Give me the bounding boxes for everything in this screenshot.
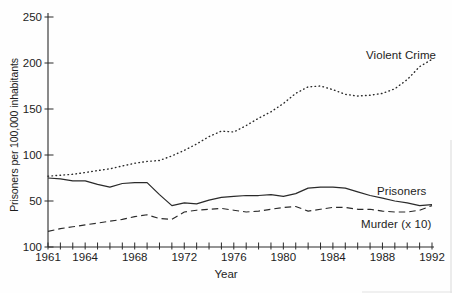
y-tick-label: 150 — [23, 103, 42, 115]
series-label-murder: Murder (x 10) — [361, 218, 431, 230]
y-tick-label: 250 — [23, 11, 42, 23]
line-chart-figure: 1005010015020025019611964196819721976198… — [0, 0, 452, 293]
x-tick-label: 1968 — [122, 251, 148, 263]
series-label-prisoners: Prisoners — [377, 185, 426, 197]
x-tick-label: 1988 — [370, 251, 396, 263]
y-axis-ticks — [45, 17, 54, 247]
x-axis-title: Year — [206, 268, 246, 280]
series-label-violent-crime: Violent Crime — [366, 49, 436, 61]
y-tick-label: 50 — [29, 195, 42, 207]
x-tick-label: 1984 — [320, 251, 346, 263]
y-axis-title: Prisoners per 100,000 inhabitants — [8, 45, 20, 225]
x-axis-ticks — [48, 243, 432, 250]
series-line-prisoners — [48, 178, 432, 206]
y-tick-label: 100 — [23, 149, 42, 161]
x-tick-label: 1980 — [271, 251, 297, 263]
x-tick-label: 1972 — [171, 251, 197, 263]
chart-canvas: 1005010015020025019611964196819721976198… — [0, 0, 452, 293]
x-tick-label: 1976 — [221, 251, 247, 263]
y-tick-labels: 10050100150200250 — [23, 11, 42, 253]
x-tick-labels: 196119641968197219761980198419881992 — [35, 251, 445, 263]
x-tick-label: 1961 — [35, 251, 61, 263]
series-line-violent-crime — [48, 59, 432, 176]
y-tick-label: 200 — [23, 57, 42, 69]
x-tick-label: 1964 — [72, 251, 98, 263]
x-tick-label: 1992 — [419, 251, 445, 263]
